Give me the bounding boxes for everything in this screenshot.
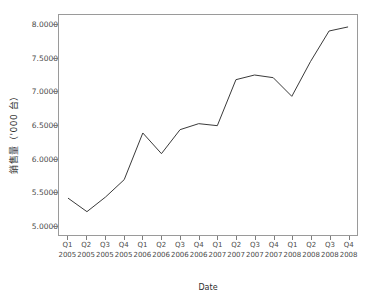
x-tick-quarter: Q3 <box>171 241 189 251</box>
x-axis-title: Date <box>58 283 358 292</box>
x-tick-year: 2005 <box>58 251 76 261</box>
x-tick-year: 2008 <box>283 251 301 261</box>
x-tick-quarter: Q2 <box>152 241 170 251</box>
x-axis-tick-label: Q42008 <box>340 241 358 260</box>
y-axis-tick-mark <box>53 125 58 126</box>
x-tick-quarter: Q4 <box>115 241 133 251</box>
x-axis-tick-label: Q12005 <box>58 241 76 260</box>
x-axis-tick-mark <box>86 236 87 240</box>
x-tick-quarter: Q2 <box>227 241 245 251</box>
y-axis-tick-labels: 5.00005.50006.00006.50007.00007.50008.00… <box>18 14 58 236</box>
x-axis-tick-label: Q42006 <box>190 241 208 260</box>
x-tick-quarter: Q3 <box>321 241 339 251</box>
x-tick-year: 2008 <box>340 251 358 261</box>
y-axis-tick-mark <box>53 159 58 160</box>
x-tick-year: 2006 <box>133 251 151 261</box>
y-axis-tick-mark <box>53 24 58 25</box>
x-tick-quarter: Q4 <box>340 241 358 251</box>
x-tick-year: 2007 <box>208 251 226 261</box>
x-axis-tick-label: Q12006 <box>133 241 151 260</box>
x-axis-tick-label: Q32005 <box>96 241 114 260</box>
plot-area <box>58 14 358 236</box>
x-axis-tick-label: Q22007 <box>227 241 245 260</box>
x-axis-tick-labels: Q12005Q22005Q32005Q42005Q12006Q22006Q320… <box>58 241 358 267</box>
y-axis-tick-mark <box>53 91 58 92</box>
x-axis-tick-mark <box>311 236 312 240</box>
x-axis-tick-mark <box>255 236 256 240</box>
x-axis-tick-label: Q22008 <box>302 241 320 260</box>
x-axis-tick-mark <box>161 236 162 240</box>
x-tick-year: 2005 <box>77 251 95 261</box>
x-tick-year: 2006 <box>171 251 189 261</box>
x-tick-quarter: Q1 <box>283 241 301 251</box>
x-tick-year: 2005 <box>115 251 133 261</box>
x-tick-year: 2005 <box>96 251 114 261</box>
x-tick-quarter: Q4 <box>265 241 283 251</box>
x-axis-tick-label: Q32007 <box>246 241 264 260</box>
y-axis-tick-mark <box>53 58 58 59</box>
x-axis-tick-mark <box>236 236 237 240</box>
x-axis-tick-mark <box>217 236 218 240</box>
x-tick-year: 2006 <box>190 251 208 261</box>
data-line-svg <box>59 15 357 235</box>
x-tick-quarter: Q4 <box>190 241 208 251</box>
x-axis-tick-label: Q12008 <box>283 241 301 260</box>
x-axis-tick-label: Q42005 <box>115 241 133 260</box>
x-tick-quarter: Q1 <box>58 241 76 251</box>
x-tick-quarter: Q1 <box>133 241 151 251</box>
x-axis-tick-mark <box>330 236 331 240</box>
x-tick-quarter: Q2 <box>77 241 95 251</box>
x-tick-quarter: Q1 <box>208 241 226 251</box>
series-line <box>68 27 347 212</box>
x-tick-year: 2008 <box>321 251 339 261</box>
y-axis-tick-mark <box>53 192 58 193</box>
x-axis-tick-mark <box>124 236 125 240</box>
x-axis-tick-mark <box>67 236 68 240</box>
x-tick-year: 2008 <box>302 251 320 261</box>
x-axis-tick-label: Q32006 <box>171 241 189 260</box>
x-axis-tick-mark <box>105 236 106 240</box>
x-tick-quarter: Q2 <box>302 241 320 251</box>
x-tick-year: 2006 <box>152 251 170 261</box>
x-tick-year: 2007 <box>265 251 283 261</box>
x-axis-tick-label: Q12007 <box>208 241 226 260</box>
x-axis-tick-mark <box>199 236 200 240</box>
x-axis-tick-mark <box>292 236 293 240</box>
x-axis-tick-mark <box>180 236 181 240</box>
x-axis-tick-mark <box>142 236 143 240</box>
x-axis-tick-label: Q22006 <box>152 241 170 260</box>
x-axis-tick-mark <box>274 236 275 240</box>
x-tick-quarter: Q3 <box>96 241 114 251</box>
x-axis-tick-mark <box>349 236 350 240</box>
x-tick-year: 2007 <box>246 251 264 261</box>
x-axis-tick-label: Q32008 <box>321 241 339 260</box>
y-axis-tick-mark <box>53 226 58 227</box>
x-tick-year: 2007 <box>227 251 245 261</box>
line-chart: 銷售量（'000 台） 5.00005.50006.00006.50007.00… <box>0 0 374 304</box>
x-axis-tick-label: Q22005 <box>77 241 95 260</box>
x-axis-tick-label: Q42007 <box>265 241 283 260</box>
x-tick-quarter: Q3 <box>246 241 264 251</box>
